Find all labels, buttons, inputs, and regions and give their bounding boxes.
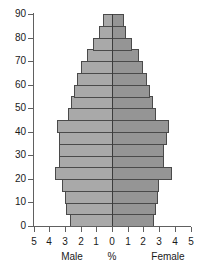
bar-female-75-80 (112, 38, 132, 51)
bar-female-20-25 (112, 167, 172, 180)
y-tick-label: 80 (6, 33, 26, 43)
bar-female-35-40 (112, 132, 167, 145)
bar-female-55-60 (112, 85, 150, 98)
bar-male-60-65 (77, 73, 113, 86)
bar-male-10-15 (65, 191, 113, 204)
y-tick-label: 70 (6, 56, 26, 66)
bar-female-30-35 (112, 144, 164, 157)
bar-male-65-70 (81, 61, 113, 74)
y-tick-label: 50 (6, 103, 26, 113)
y-tick-label: 30 (6, 150, 26, 160)
x-tick-label: 0 (105, 236, 119, 247)
male-axis-caption: Male (44, 251, 100, 262)
bar-male-15-20 (62, 179, 113, 192)
y-axis-line (33, 13, 34, 227)
x-tick-label: 3 (152, 236, 166, 247)
x-tick-label: 5 (27, 236, 41, 247)
bar-female-60-65 (112, 73, 147, 86)
bar-male-20-25 (55, 167, 113, 180)
bar-male-45-50 (68, 108, 113, 121)
y-tick-label: 0 (6, 221, 26, 231)
x-tick-label: 2 (136, 236, 150, 247)
y-tick-label: 40 (6, 127, 26, 137)
x-tick-mark (112, 227, 113, 232)
x-tick-mark (159, 227, 160, 232)
x-tick-label: 3 (58, 236, 72, 247)
bar-female-45-50 (112, 108, 156, 121)
x-tick-label: 2 (74, 236, 88, 247)
bar-female-15-20 (112, 179, 159, 192)
x-tick-label: 4 (168, 236, 182, 247)
y-tick-label: 20 (6, 174, 26, 184)
x-tick-label: 5 (184, 236, 198, 247)
x-tick-label: 1 (89, 236, 103, 247)
x-tick-mark (128, 227, 129, 232)
x-tick-mark (34, 227, 35, 232)
bar-female-85-90 (112, 14, 124, 27)
center-zero-line (112, 14, 113, 227)
x-tick-mark (96, 227, 97, 232)
bar-female-65-70 (112, 61, 143, 74)
bar-male-40-45 (57, 120, 113, 133)
bar-male-55-60 (74, 85, 113, 98)
bar-female-40-45 (112, 120, 169, 133)
bar-male-75-80 (93, 38, 113, 51)
x-tick-label: 4 (42, 236, 56, 247)
x-tick-mark (191, 227, 192, 232)
y-tick-label: 90 (6, 9, 26, 19)
y-tick-label: 60 (6, 80, 26, 90)
bar-male-30-35 (59, 144, 113, 157)
y-tick-label: 10 (6, 197, 26, 207)
x-tick-mark (175, 227, 176, 232)
x-tick-mark (143, 227, 144, 232)
population-pyramid-chart: 0102030405060708090 54321012345 Male % F… (0, 0, 202, 269)
female-axis-caption: Female (140, 251, 196, 262)
x-tick-mark (81, 227, 82, 232)
bar-male-80-85 (99, 26, 113, 39)
x-tick-label: 1 (121, 236, 135, 247)
bar-female-10-15 (112, 191, 158, 204)
bar-female-80-85 (112, 26, 126, 39)
bar-male-35-40 (59, 132, 113, 145)
x-axis-line (33, 226, 191, 227)
x-tick-mark (65, 227, 66, 232)
percent-axis-caption: % (96, 251, 128, 262)
x-tick-mark (49, 227, 50, 232)
